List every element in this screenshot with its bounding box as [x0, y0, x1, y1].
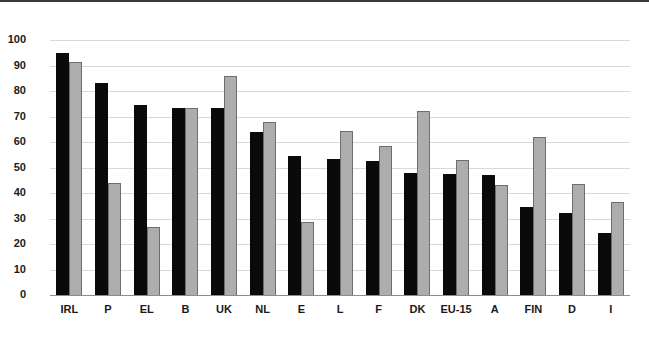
bar — [211, 108, 224, 295]
bar — [147, 227, 160, 295]
bar — [108, 183, 121, 295]
bar — [288, 156, 301, 295]
y-axis-tick-label: 20 — [0, 238, 26, 249]
bar-group — [321, 40, 360, 295]
x-axis-tick-label: UK — [205, 300, 244, 322]
top-divider-rule — [0, 0, 649, 2]
bar — [559, 213, 572, 295]
bar — [263, 122, 276, 295]
bar — [404, 173, 417, 295]
x-axis-tick-label: EL — [127, 300, 166, 322]
bar — [340, 131, 353, 295]
bar — [327, 159, 340, 295]
bar — [598, 233, 611, 295]
y-axis-tick-label: 10 — [0, 264, 26, 275]
bar-group — [475, 40, 514, 295]
x-axis-tick-label: I — [591, 300, 630, 322]
bar-groups — [50, 40, 630, 295]
x-axis-tick-label: L — [321, 300, 360, 322]
x-axis-tick-label: E — [282, 300, 321, 322]
bar — [250, 132, 263, 295]
bar — [572, 184, 585, 295]
bar-group — [359, 40, 398, 295]
y-axis-tick-label: 90 — [0, 60, 26, 71]
bar — [379, 146, 392, 295]
x-axis-tick-label: NL — [243, 300, 282, 322]
x-axis-tick-label: B — [166, 300, 205, 322]
bar — [482, 175, 495, 295]
bar — [611, 202, 624, 295]
bar — [224, 76, 237, 295]
y-axis-tick-label: 80 — [0, 85, 26, 96]
bar — [69, 62, 82, 295]
x-axis-tick-label: F — [359, 300, 398, 322]
x-axis-category-labels: IRLPELBUKNLELFDKEU-15AFINDI — [50, 300, 630, 322]
bar-group — [437, 40, 476, 295]
x-axis-tick-label: D — [553, 300, 592, 322]
bar-group — [89, 40, 128, 295]
x-axis-tick-label: FIN — [514, 300, 553, 322]
bar — [301, 222, 314, 295]
bar — [443, 174, 456, 295]
y-axis-tick-label: 60 — [0, 136, 26, 147]
bar — [533, 137, 546, 295]
bar-group — [282, 40, 321, 295]
bar-group — [243, 40, 282, 295]
y-axis-tick-label: 50 — [0, 162, 26, 173]
x-axis-tick-label: P — [89, 300, 128, 322]
bar — [95, 83, 108, 295]
bar-group — [127, 40, 166, 295]
bar-group — [166, 40, 205, 295]
x-axis-tick-label: DK — [398, 300, 437, 322]
bar-group — [205, 40, 244, 295]
bar-chart: 1009080706050403020100 IRLPELBUKNLELFDKE… — [0, 0, 649, 342]
bar-group — [50, 40, 89, 295]
gridline — [50, 295, 630, 296]
bar — [366, 161, 379, 295]
plot-area: 1009080706050403020100 — [50, 40, 630, 295]
y-axis-tick-label: 100 — [0, 34, 26, 45]
bar — [520, 207, 533, 295]
bar-group — [553, 40, 592, 295]
y-axis-tick-label: 30 — [0, 213, 26, 224]
bar — [417, 111, 430, 295]
bar-group — [591, 40, 630, 295]
bar — [172, 108, 185, 295]
y-axis-tick-label: 70 — [0, 111, 26, 122]
x-axis-tick-label: EU-15 — [437, 300, 476, 322]
bar — [495, 185, 508, 295]
bar-group — [398, 40, 437, 295]
bar — [134, 105, 147, 295]
bar-group — [514, 40, 553, 295]
y-axis-tick-label: 40 — [0, 187, 26, 198]
x-axis-tick-label: A — [475, 300, 514, 322]
bar — [456, 160, 469, 295]
bar — [56, 53, 69, 295]
x-axis-tick-label: IRL — [50, 300, 89, 322]
y-axis-tick-label: 0 — [0, 289, 26, 300]
bar — [185, 108, 198, 295]
